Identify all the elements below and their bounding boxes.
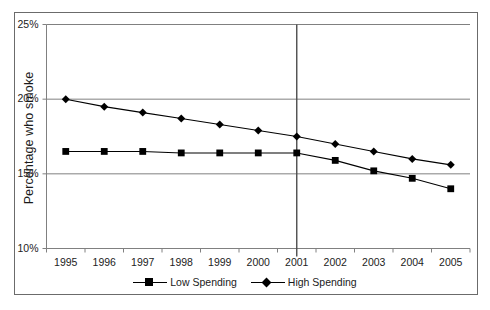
data-point-square bbox=[216, 150, 223, 157]
y-tick-label: 25% bbox=[5, 18, 39, 30]
y-tick-label: 10% bbox=[5, 242, 39, 254]
x-tick-label: 1996 bbox=[84, 256, 124, 268]
x-tick-label: 1999 bbox=[200, 256, 240, 268]
data-point-diamond bbox=[100, 103, 108, 111]
x-tick-label: 2004 bbox=[392, 256, 432, 268]
y-axis-title: Percentage who smoke bbox=[18, 24, 40, 252]
data-point-square bbox=[255, 150, 262, 157]
x-tick-label: 1997 bbox=[123, 256, 163, 268]
x-tick-label: 2003 bbox=[354, 256, 394, 268]
legend-item-low-spending: Low Spending bbox=[133, 276, 237, 288]
series-lines-group bbox=[66, 99, 451, 189]
data-point-diamond bbox=[447, 161, 455, 169]
y-tick-label: 15% bbox=[5, 167, 39, 179]
data-point-square bbox=[62, 148, 69, 155]
data-point-diamond bbox=[254, 127, 262, 135]
data-point-square bbox=[101, 148, 108, 155]
x-tick-label: 1998 bbox=[161, 256, 201, 268]
data-point-square bbox=[447, 185, 454, 192]
data-point-diamond bbox=[293, 133, 301, 141]
axes-group bbox=[43, 25, 471, 249]
diamond-marker-icon bbox=[251, 276, 285, 288]
series-line-low-spending bbox=[66, 151, 451, 188]
data-point-square bbox=[370, 167, 377, 174]
data-point-square bbox=[139, 148, 146, 155]
legend-label-low-spending: Low Spending bbox=[170, 276, 237, 288]
data-point-diamond bbox=[177, 115, 185, 123]
data-point-diamond bbox=[139, 109, 147, 117]
data-point-square bbox=[409, 175, 416, 182]
data-point-square bbox=[293, 150, 300, 157]
legend-label-high-spending: High Spending bbox=[288, 276, 357, 288]
data-point-square bbox=[332, 157, 339, 164]
x-tick-label: 1995 bbox=[46, 256, 86, 268]
chart-container: Percentage who smoke 10%15%20%25% 199519… bbox=[0, 0, 490, 310]
gridlines-group bbox=[47, 25, 471, 249]
chart-legend: Low Spending High Spending bbox=[0, 276, 490, 288]
data-point-diamond bbox=[370, 147, 378, 155]
data-point-diamond bbox=[62, 95, 70, 103]
legend-item-high-spending: High Spending bbox=[251, 276, 357, 288]
square-marker-icon bbox=[133, 276, 167, 288]
data-point-diamond bbox=[331, 140, 339, 148]
x-tick-label: 2001 bbox=[277, 256, 317, 268]
x-tick-label: 2005 bbox=[431, 256, 471, 268]
data-point-diamond bbox=[216, 121, 224, 129]
x-tick-label: 2000 bbox=[238, 256, 278, 268]
data-point-square bbox=[178, 150, 185, 157]
x-tick-label: 2002 bbox=[315, 256, 355, 268]
x-tickmarks-group bbox=[47, 249, 471, 253]
data-point-diamond bbox=[408, 155, 416, 163]
y-tick-label: 20% bbox=[5, 92, 39, 104]
